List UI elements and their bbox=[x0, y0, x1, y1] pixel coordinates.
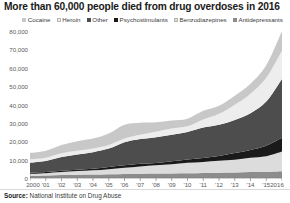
legend-swatch-icon bbox=[57, 18, 61, 22]
y-axis-tick-label: 30,000 bbox=[9, 119, 28, 126]
y-axis-tick-label: 10,000 bbox=[9, 156, 28, 163]
legend-swatch-icon bbox=[114, 18, 118, 22]
source-text: National Institute on Drug Abuse bbox=[30, 192, 122, 199]
y-axis-tick-label: 50,000 bbox=[9, 83, 28, 90]
legend-label: Heroin bbox=[62, 15, 80, 24]
x-axis-tick-label: '15 bbox=[262, 181, 270, 188]
legend-swatch-icon bbox=[174, 18, 178, 22]
source-label: Source: bbox=[4, 192, 28, 199]
area-layers bbox=[30, 31, 282, 178]
legend-item-other[interactable]: Other bbox=[87, 15, 108, 24]
x-axis-tick-label: '06 bbox=[121, 181, 129, 188]
legend-label: Other bbox=[92, 15, 107, 24]
stacked-area-plot bbox=[30, 26, 282, 181]
legend-item-antidepressants[interactable]: Antidepressants bbox=[233, 15, 283, 24]
x-axis-tick-label: '02 bbox=[58, 181, 66, 188]
x-axis-tick-label: '12 bbox=[215, 181, 223, 188]
chart-title: More than 60,000 people died from drug o… bbox=[4, 1, 288, 13]
x-axis-tick-label: '14 bbox=[247, 181, 255, 188]
x-axis-tick-label: '09 bbox=[168, 181, 176, 188]
legend-swatch-icon bbox=[87, 18, 91, 22]
x-axis-tick-label: '05 bbox=[105, 181, 113, 188]
footer-divider bbox=[0, 189, 290, 190]
chart-legend: CocaineHeroinOtherPsychostimulantsBenzod… bbox=[22, 14, 284, 25]
legend-label: Benzodiazepines bbox=[180, 15, 227, 24]
chart-source: Source: National Institute on Drug Abuse bbox=[4, 191, 288, 200]
legend-label: Cocaine bbox=[28, 15, 51, 24]
x-axis-tick-label: '07 bbox=[136, 181, 144, 188]
plot-area: 010,00020,00030,00040,00050,00060,00070,… bbox=[0, 26, 290, 181]
legend-item-cocaine[interactable]: Cocaine bbox=[22, 15, 51, 24]
x-axis-tick-label: '03 bbox=[73, 181, 81, 188]
x-axis-tick-label: '10 bbox=[184, 181, 192, 188]
legend-item-heroin[interactable]: Heroin bbox=[57, 15, 81, 24]
legend-swatch-icon bbox=[233, 18, 237, 22]
x-axis-tick-label: '08 bbox=[152, 181, 160, 188]
x-axis-tick-label: 2016 bbox=[270, 181, 284, 188]
legend-swatch-icon bbox=[22, 18, 26, 22]
y-axis-tick-label: 40,000 bbox=[9, 101, 28, 108]
x-axis-tick-label: 2000 bbox=[26, 181, 40, 188]
legend-label: Antidepressants bbox=[239, 15, 283, 24]
y-axis-labels: 010,00020,00030,00040,00050,00060,00070,… bbox=[0, 26, 29, 178]
legend-item-psychostimulants[interactable]: Psychostimulants bbox=[114, 15, 168, 24]
y-axis-tick-label: 60,000 bbox=[9, 64, 28, 71]
legend-label: Psychostimulants bbox=[120, 15, 168, 24]
legend-item-benzodiazepines[interactable]: Benzodiazepines bbox=[174, 15, 227, 24]
x-axis-tick-label: '13 bbox=[231, 181, 239, 188]
y-axis-tick-label: 80,000 bbox=[9, 28, 28, 35]
y-axis-tick-label: 70,000 bbox=[9, 46, 28, 53]
x-axis-tick-label: '01 bbox=[42, 181, 50, 188]
overdose-deaths-chart-figure: More than 60,000 people died from drug o… bbox=[0, 0, 290, 203]
x-axis-tick-label: '04 bbox=[89, 181, 97, 188]
x-axis-tick-label: '11 bbox=[200, 181, 208, 188]
y-axis-tick-label: 20,000 bbox=[9, 138, 28, 145]
